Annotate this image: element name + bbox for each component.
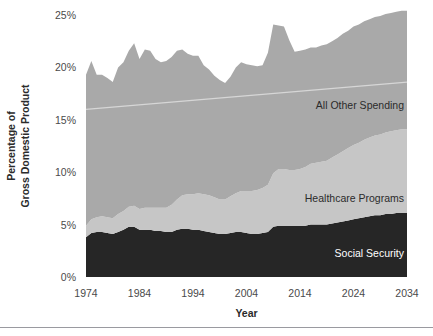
x-tick-label: 2024 bbox=[342, 287, 366, 299]
x-tick-label: 2004 bbox=[235, 287, 259, 299]
x-tick-label: 1984 bbox=[128, 287, 152, 299]
x-tick-label: 1994 bbox=[181, 287, 205, 299]
y-tick-label: 10% bbox=[55, 166, 76, 178]
y-axis-title-line1: Percentage of bbox=[5, 111, 17, 181]
footer-divider bbox=[0, 327, 433, 328]
x-tick-label: 2034 bbox=[395, 287, 419, 299]
y-tick-label: 15% bbox=[55, 114, 76, 126]
y-tick-label: 5% bbox=[61, 219, 76, 231]
y-tick-label: 25% bbox=[55, 9, 76, 21]
y-tick-label: 0% bbox=[61, 271, 76, 283]
series-label-social-security: Social Security bbox=[335, 247, 405, 259]
series-label-all-other-spending: All Other Spending bbox=[316, 99, 404, 111]
x-axis-title: Year bbox=[235, 307, 257, 319]
y-axis-title-line2: Gross Domestic Product bbox=[19, 84, 31, 208]
chart-figure: 25%20%15%10%5%0%197419841994200420142024… bbox=[0, 0, 433, 336]
x-tick-label: 1974 bbox=[74, 287, 98, 299]
y-tick-label: 20% bbox=[55, 61, 76, 73]
x-tick-label: 2014 bbox=[288, 287, 312, 299]
stacked-area-chart: 25%20%15%10%5%0%197419841994200420142024… bbox=[0, 0, 433, 336]
series-label-healthcare-programs: Healthcare Programs bbox=[305, 192, 404, 204]
